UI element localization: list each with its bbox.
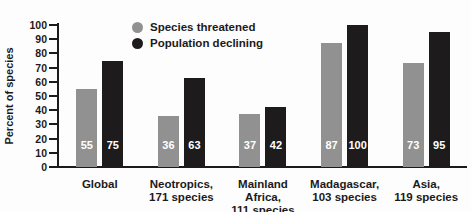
y-tick-50: 50 [0, 90, 57, 102]
bar: 73 [403, 63, 424, 167]
bar-value-label: 63 [184, 139, 205, 151]
category-label-line: Madagascar, [304, 178, 386, 191]
legend: Species threatened Population declining [132, 21, 263, 50]
legend-item-population-declining: Population declining [132, 37, 263, 50]
bar-chart-figure: Percent of species 010203040506070809010… [0, 0, 471, 212]
bar: 63 [184, 78, 205, 167]
category-label-line: 171 species [141, 191, 223, 204]
x-axis-labels: GlobalNeotropics,171 speciesMainland Afr… [59, 178, 467, 212]
y-tick-0: 0 [0, 161, 57, 173]
bar-value-label: 42 [265, 139, 286, 151]
category-label-3: Madagascar,103 species [304, 178, 386, 212]
bar: 42 [265, 107, 286, 167]
bar-value-label: 100 [347, 139, 368, 151]
bar-group-3: 87100 [304, 25, 386, 167]
bar-group-4: 7395 [385, 25, 467, 167]
y-tick-mark [49, 52, 57, 54]
bar: 36 [158, 116, 179, 167]
y-tick-70: 70 [0, 62, 57, 74]
y-tick-label: 100 [7, 19, 47, 31]
legend-label: Species threatened [150, 21, 255, 34]
category-label-line: 111 species [222, 204, 304, 212]
y-tick-mark [49, 24, 57, 26]
y-tick-mark [49, 109, 57, 111]
category-label-0: Global [59, 178, 141, 212]
y-tick-100: 100 [0, 19, 57, 31]
bar-value-label: 37 [239, 139, 260, 151]
black-circle-icon [132, 38, 143, 49]
y-tick-label: 30 [7, 118, 47, 130]
category-label-line: 103 species [304, 191, 386, 204]
legend-label: Population declining [150, 37, 263, 50]
bar: 55 [76, 89, 97, 167]
y-tick-label: 70 [7, 62, 47, 74]
y-tick-60: 60 [0, 76, 57, 88]
y-tick-90: 90 [0, 33, 57, 45]
y-tick-mark [49, 81, 57, 83]
category-label-line: Mainland Africa, [222, 178, 304, 204]
y-tick-20: 20 [0, 133, 57, 145]
y-tick-mark [49, 166, 57, 168]
bar-value-label: 87 [321, 139, 342, 151]
y-tick-mark [49, 138, 57, 140]
bar-value-label: 95 [429, 139, 450, 151]
y-tick-mark [49, 67, 57, 69]
category-label-line: Asia, [385, 178, 467, 191]
category-label-line: Neotropics, [141, 178, 223, 191]
y-tick-mark [49, 38, 57, 40]
bar-group-0: 5575 [59, 25, 141, 167]
bar: 87 [321, 43, 342, 167]
y-tick-label: 0 [7, 161, 47, 173]
legend-item-species-threatened: Species threatened [132, 21, 263, 34]
bar-value-label: 55 [76, 139, 97, 151]
category-label-4: Asia,119 species [385, 178, 467, 212]
bar-value-label: 75 [102, 139, 123, 151]
y-axis-ticks: 0102030405060708090100 [0, 25, 57, 167]
y-tick-30: 30 [0, 118, 57, 130]
category-label-2: Mainland Africa,111 species [222, 178, 304, 212]
y-tick-label: 20 [7, 133, 47, 145]
y-tick-mark [49, 152, 57, 154]
y-tick-label: 40 [7, 104, 47, 116]
gray-circle-icon [132, 22, 143, 33]
bar-value-label: 36 [158, 139, 179, 151]
y-tick-mark [49, 123, 57, 125]
category-label-1: Neotropics,171 species [141, 178, 223, 212]
category-label-line: Global [59, 178, 141, 191]
y-tick-label: 80 [7, 47, 47, 59]
y-tick-40: 40 [0, 104, 57, 116]
bar: 75 [102, 61, 123, 168]
y-tick-label: 60 [7, 76, 47, 88]
bar: 37 [239, 114, 260, 167]
y-tick-label: 90 [7, 33, 47, 45]
y-tick-mark [49, 95, 57, 97]
y-tick-80: 80 [0, 47, 57, 59]
y-tick-10: 10 [0, 147, 57, 159]
category-label-line: 119 species [385, 191, 467, 204]
y-tick-label: 10 [7, 147, 47, 159]
y-tick-label: 50 [7, 90, 47, 102]
bar: 95 [429, 32, 450, 167]
bar: 100 [347, 25, 368, 167]
bar-value-label: 73 [403, 139, 424, 151]
